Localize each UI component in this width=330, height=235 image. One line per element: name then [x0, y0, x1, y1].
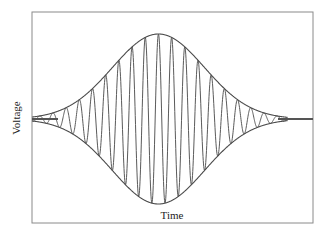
- carrier-signal-curve: [32, 34, 313, 203]
- wave-packet-figure: Voltage Time: [0, 0, 330, 235]
- x-axis-label: Time: [161, 209, 184, 221]
- y-axis-label: Voltage: [10, 101, 22, 135]
